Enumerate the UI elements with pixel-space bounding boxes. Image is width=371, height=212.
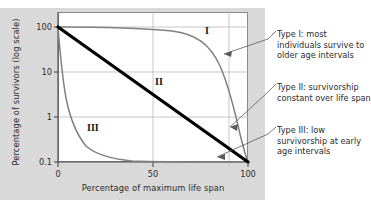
annotation-text-type-3: Type III: low survivorship at early age … (277, 125, 371, 157)
x-tick-label-0: 0 (43, 169, 73, 179)
x-axis-title: Percentage of maximum life span (58, 183, 248, 193)
curve-label-type-2: II (155, 77, 163, 87)
y-tick-label-100: 100 (18, 22, 52, 32)
curve-label-type-1: I (205, 26, 209, 36)
leader-line-type-1 (224, 31, 276, 54)
annotation-leader-lines (217, 31, 276, 157)
leader-line-type-3 (217, 127, 276, 157)
y-tick-label-1: 1 (18, 112, 52, 122)
x-tick-label-100: 100 (233, 169, 263, 179)
y-tick-label-0-1: 0.1 (18, 157, 52, 167)
y-axis-title: Percentage of survivors (log scale) (11, 17, 21, 167)
annotation-text-type-1: Type I: most individuals survive to olde… (277, 29, 371, 61)
arrowhead-type-2 (230, 124, 238, 131)
arrowhead-type-1 (224, 51, 232, 57)
annotation-text-type-2: Type II: survivorship constant over life… (277, 82, 371, 103)
axis-lines (54, 12, 248, 167)
leader-line-type-2 (230, 84, 276, 127)
curve-label-type-3: III (87, 123, 99, 133)
survivorship-curve-figure: 100 10 1 0.1 0 50 100 Percentage of maxi… (0, 0, 371, 212)
x-tick-label-50: 50 (138, 169, 168, 179)
y-tick-label-10: 10 (18, 67, 52, 77)
